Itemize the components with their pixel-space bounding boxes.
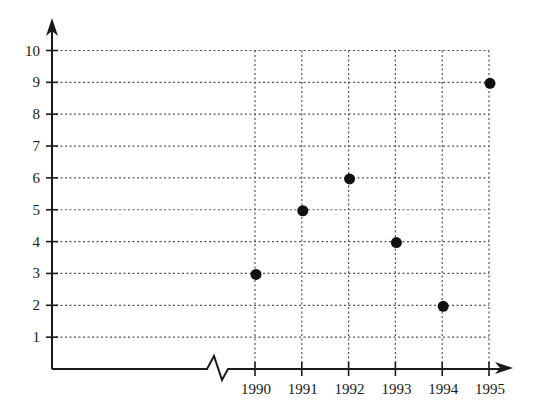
x-tick-label: 1991 <box>288 381 318 397</box>
y-tick-label: 6 <box>33 170 41 186</box>
x-tick-label: 1990 <box>241 381 271 397</box>
y-tick-label: 10 <box>25 43 40 59</box>
scatter-chart: 12345678910 199019911992199319941995 <box>0 0 535 419</box>
x-tick-label: 1994 <box>428 381 459 397</box>
x-ticks: 199019911992199319941995 <box>241 362 505 397</box>
y-tick-label: 3 <box>33 265 41 281</box>
x-axis-with-break <box>52 356 502 380</box>
data-point <box>485 78 496 89</box>
y-tick-label: 2 <box>33 297 41 313</box>
x-tick-label: 1993 <box>381 381 411 397</box>
y-tick-label: 1 <box>33 329 41 345</box>
y-tick-label: 5 <box>33 202 41 218</box>
data-points <box>251 78 496 312</box>
data-point <box>251 269 262 280</box>
y-ticks: 12345678910 <box>25 43 58 346</box>
data-point <box>344 173 355 184</box>
grid-lines <box>56 51 489 367</box>
x-tick-label: 1992 <box>335 381 365 397</box>
y-tick-label: 7 <box>33 138 41 154</box>
data-point <box>297 205 308 216</box>
data-point <box>438 301 449 312</box>
y-tick-label: 9 <box>33 74 41 90</box>
y-tick-label: 4 <box>33 234 41 250</box>
x-tick-label: 1995 <box>475 381 505 397</box>
data-point <box>391 237 402 248</box>
y-tick-label: 8 <box>33 106 41 122</box>
axes <box>46 18 513 380</box>
